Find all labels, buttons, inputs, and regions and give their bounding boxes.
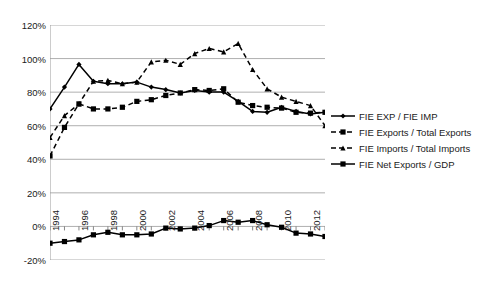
chart-legend: FIE EXP / FIE IMPFIE Exports / Total Exp…	[330, 108, 480, 172]
legend-key-square-icon	[330, 126, 356, 138]
legend-item-label: FIE EXP / FIE IMP	[359, 111, 437, 122]
y-axis-tick-labels: 120%100%80%60%40%20%0%-20%	[0, 25, 46, 260]
legend-item: FIE EXP / FIE IMP	[330, 108, 480, 124]
x-axis-tick-label: 2006	[224, 210, 235, 231]
legend-item-label: FIE Imports / Total Imports	[359, 143, 470, 154]
y-axis-tick-label: -20%	[24, 255, 46, 266]
x-axis-tick-label: 2012	[311, 210, 322, 231]
legend-item: FIE Net Exports / GDP	[330, 156, 480, 172]
x-axis-tick-label: 2010	[282, 210, 293, 231]
x-axis-tick-label: 2002	[166, 210, 177, 231]
y-axis-tick-label: 120%	[22, 20, 46, 31]
legend-item: FIE Imports / Total Imports	[330, 140, 480, 156]
x-axis-tick-label: 1994	[50, 210, 61, 231]
x-axis-tick-label: 2000	[137, 210, 148, 231]
x-axis-tick-label: 2004	[195, 210, 206, 231]
y-axis-tick-label: 20%	[27, 187, 46, 198]
legend-key-diamond-icon	[330, 110, 356, 122]
legend-item: FIE Exports / Total Exports	[330, 124, 480, 140]
data-point-marker	[340, 113, 345, 118]
x-axis-tick-label: 1996	[79, 210, 90, 231]
data-point-marker	[340, 161, 345, 166]
data-point-marker	[340, 129, 345, 134]
y-axis-tick-label: 60%	[27, 120, 46, 131]
legend-key-square-icon	[330, 158, 356, 170]
chart-container: 120%100%80%60%40%20%0%-20% 1994199619982…	[0, 0, 480, 288]
x-axis-tick-labels: 1994199619982000200220042006200820102012	[50, 0, 325, 288]
legend-item-label: FIE Net Exports / GDP	[359, 159, 455, 170]
x-axis-tick-label: 2008	[253, 210, 264, 231]
y-axis-tick-label: 0%	[32, 221, 46, 232]
legend-item-label: FIE Exports / Total Exports	[359, 127, 471, 138]
y-axis-tick-label: 100%	[22, 53, 46, 64]
y-axis-tick-label: 80%	[27, 87, 46, 98]
y-axis-tick-label: 40%	[27, 154, 46, 165]
x-axis-tick-label: 1998	[108, 210, 119, 231]
legend-key-triangle-icon	[330, 142, 356, 154]
